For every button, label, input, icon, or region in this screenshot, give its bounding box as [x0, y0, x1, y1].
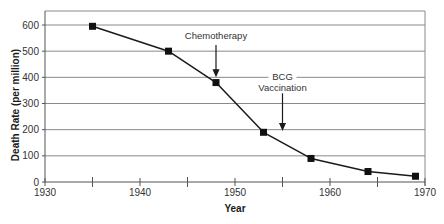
- data-point-square-icon: [365, 168, 372, 175]
- x-tick-label: 1940: [129, 187, 152, 198]
- data-point-square-icon: [260, 129, 267, 136]
- data-point-square-icon: [412, 173, 419, 180]
- annotation-label: Vaccination: [258, 82, 306, 93]
- annotations: ChemotherapyBCGVaccination: [185, 30, 307, 131]
- annotation-chemotherapy: Chemotherapy: [185, 30, 248, 77]
- series-line: [93, 26, 416, 176]
- annotation-bcg-vaccination: BCGVaccination: [258, 71, 306, 131]
- y-axis-title: Death Rate (per million): [10, 49, 21, 161]
- data-point-square-icon: [213, 79, 220, 86]
- y-tick-label: 100: [22, 150, 39, 161]
- x-tick-label: 1950: [224, 187, 247, 198]
- y-axis-tick-labels: 0100200300400500600: [22, 20, 39, 188]
- data-point-square-icon: [165, 48, 172, 55]
- annotation-label: Chemotherapy: [185, 30, 248, 41]
- y-tick-label: 0: [33, 177, 39, 188]
- death-rate-line-chart: 0100200300400500600 19301940195019601970…: [0, 0, 444, 224]
- x-tick-label: 1960: [319, 187, 342, 198]
- x-tick-label: 1970: [414, 187, 437, 198]
- x-axis-title: Year: [224, 203, 245, 214]
- y-tick-label: 200: [22, 124, 39, 135]
- annotation-label: BCG: [272, 71, 293, 82]
- y-tick-label: 500: [22, 46, 39, 57]
- data-point-square-icon: [308, 155, 315, 162]
- data-point-square-icon: [89, 23, 96, 30]
- arrow-down-icon: [213, 69, 220, 77]
- x-tick-label: 1930: [34, 187, 57, 198]
- y-tick-label: 300: [22, 98, 39, 109]
- x-axis-tick-labels: 19301940195019601970: [34, 187, 437, 198]
- y-tick-label: 600: [22, 20, 39, 31]
- y-tick-label: 400: [22, 72, 39, 83]
